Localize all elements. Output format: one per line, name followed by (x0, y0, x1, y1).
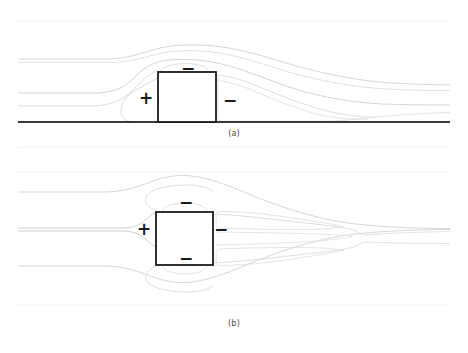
panel-b-plus-sign: + (137, 221, 151, 238)
panel-b-stagnation-streamline-lower (18, 231, 156, 247)
panel-b-minus-bottom-sign: − (179, 250, 193, 267)
figure-canvas: + − − + − − − (a) (b) (0, 0, 468, 353)
panel-a-wake-contour-outer (216, 75, 376, 117)
panel-b-wake-outer-lower (213, 251, 334, 264)
panel-b-contour-upper-outer (18, 175, 450, 228)
panel-b-wake-lobe-upper (216, 212, 344, 230)
panel-a-reattach-line (362, 113, 450, 119)
panel-a-plus-sign: + (139, 90, 153, 107)
panel-b-stagnation-streamline-upper (18, 212, 156, 228)
panel-a-contour-1 (18, 45, 450, 85)
panel-b-recovery-lower (366, 242, 450, 244)
panel-a-minus-wake-sign: − (223, 92, 237, 109)
panel-b-minus-top-sign: − (179, 194, 193, 211)
panel-b-wake-outer-upper (213, 214, 334, 227)
panel-a-contour-2 (18, 51, 450, 91)
panel-b-contour-lower-outer (18, 230, 450, 283)
panel-b-wake-centerline-upper (216, 232, 352, 237)
panel-b-group (18, 172, 450, 305)
panel-a-caption: (a) (0, 129, 468, 138)
panel-a-obstacle (158, 72, 216, 122)
contour-plot-svg (0, 0, 468, 353)
panel-b-caption: (b) (0, 319, 468, 328)
panel-b-minus-wake-sign: − (214, 221, 228, 238)
panel-b-wake-lobe-lower (216, 247, 344, 265)
panel-a-minus-top-sign: − (181, 60, 195, 77)
panel-b-body-contour-lower (145, 266, 213, 292)
